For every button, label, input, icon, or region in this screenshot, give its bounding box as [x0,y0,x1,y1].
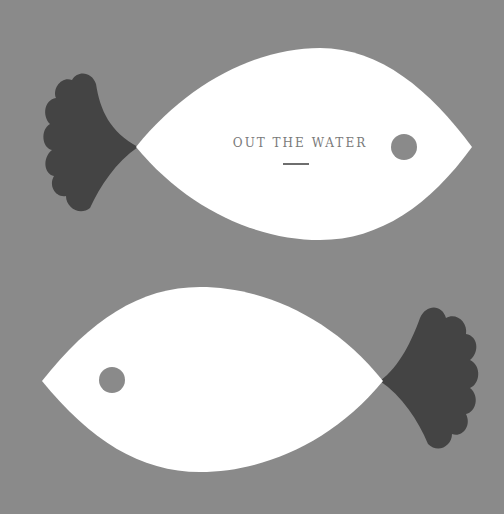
bottom-fish-tail [380,308,478,449]
bottom-fish-eye [99,367,125,393]
fish-illustration [0,0,504,514]
title-underline [283,163,309,165]
bottom-fish [42,287,478,472]
top-fish-tail [43,74,138,212]
bottom-fish-body [42,287,383,472]
title-text: OUT THE WATER [200,136,400,150]
